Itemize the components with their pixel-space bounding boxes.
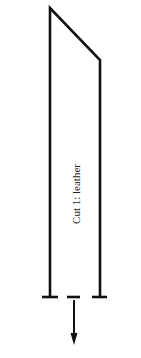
cut-label: Cut 1: leather — [70, 164, 82, 224]
arrow-down-icon — [71, 333, 78, 345]
strip-outline — [50, 8, 100, 297]
